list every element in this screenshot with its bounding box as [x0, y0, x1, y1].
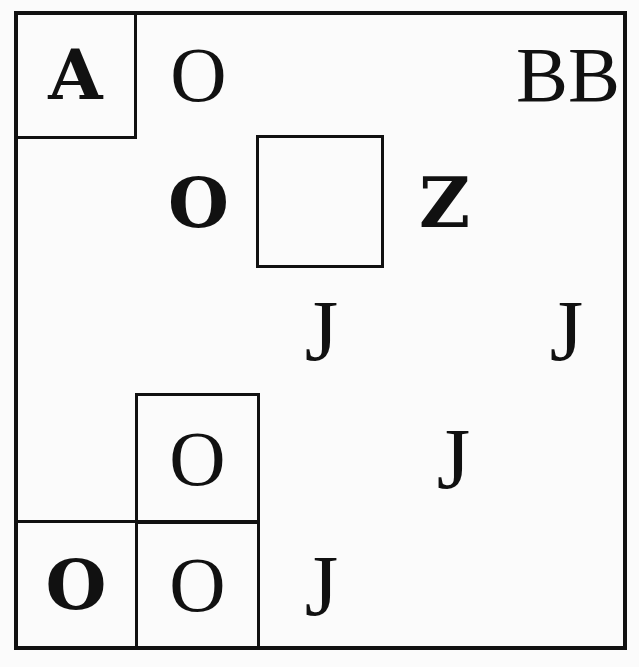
- cell-r0-c1: O: [137, 11, 260, 139]
- cell-r4-c2: J: [260, 522, 383, 650]
- cell-r3-c1: O: [135, 393, 260, 524]
- letter-j: J: [305, 543, 338, 629]
- letter-a: A: [48, 40, 102, 110]
- cell-r2-c2: J: [260, 267, 383, 395]
- letter-o: O: [169, 420, 225, 498]
- letter-bb: BB: [516, 36, 620, 114]
- cell-r0-c0: A: [14, 11, 137, 139]
- letter-j: J: [305, 288, 338, 374]
- cell-r3-c3: J: [392, 395, 515, 523]
- cell-r1-c1: O: [137, 139, 260, 267]
- letter-j: J: [437, 416, 470, 502]
- letter-o-bold: O: [168, 168, 229, 238]
- cell-r4-c1: O: [135, 520, 260, 650]
- letter-z: Z: [419, 168, 470, 238]
- cell-r1-c2-empty-box: [256, 135, 384, 268]
- letter-o: O: [170, 36, 226, 114]
- letter-j: J: [550, 288, 583, 374]
- letter-o-bold: O: [46, 550, 107, 620]
- cell-r0-c4: BB: [500, 11, 620, 139]
- cell-r1-c3: Z: [383, 139, 506, 267]
- cell-r4-c0: O: [14, 520, 138, 650]
- letter-o: O: [169, 546, 225, 624]
- cell-r2-c4: J: [505, 267, 628, 395]
